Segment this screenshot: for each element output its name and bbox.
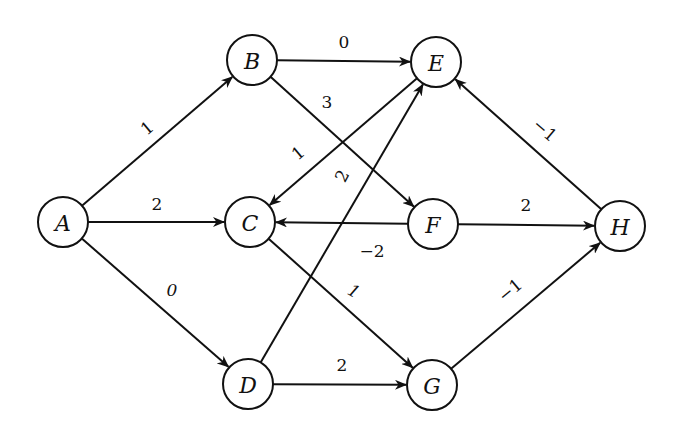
node-a: A [38, 197, 88, 247]
edge-label-layer: 1200312−2212−1−1 [136, 32, 561, 375]
edge-d-to-g [273, 384, 406, 385]
edge-weight-e-c: 1 [287, 142, 308, 164]
edge-weight-g-h: −1 [494, 274, 526, 305]
edge-weight-a-d: 0 [167, 280, 178, 300]
node-label: B [243, 49, 260, 74]
edge-weight-a-b: 1 [136, 117, 157, 139]
edge-weight-c-g: 1 [344, 280, 363, 303]
node-f: F [408, 199, 458, 249]
node-label: H [609, 215, 630, 240]
edge-f-to-c [276, 222, 408, 223]
graph-canvas: 1200312−2212−1−1 ABCDEFGH [0, 0, 675, 435]
node-c: C [225, 197, 275, 247]
edge-weight-b-f: 3 [322, 92, 333, 112]
edge-weight-f-c: −2 [359, 241, 384, 261]
node-g: G [407, 360, 457, 410]
node-label: E [427, 51, 444, 76]
edge-a-to-d [82, 238, 229, 366]
edge-h-to-e [455, 79, 601, 209]
node-d: D [223, 359, 273, 409]
edge-f-to-h [458, 224, 594, 225]
edge-c-to-g [269, 239, 413, 368]
edge-a-to-b [82, 77, 232, 206]
edge-weight-b-e: 0 [339, 32, 350, 52]
edge-g-to-h [451, 243, 600, 369]
edge-weight-d-e: 2 [331, 167, 354, 186]
edge-weight-h-e: −1 [529, 114, 561, 145]
edge-weight-f-h: 2 [521, 195, 532, 215]
node-label: C [242, 211, 259, 236]
node-label: A [53, 211, 71, 236]
node-h: H [595, 201, 645, 251]
node-label: G [423, 374, 441, 399]
node-label: D [238, 373, 257, 398]
node-label: F [424, 213, 441, 238]
edge-b-to-e [277, 60, 410, 61]
edge-weight-d-g: 2 [337, 355, 348, 375]
edge-weight-a-c: 2 [152, 194, 163, 214]
edge-layer [82, 60, 602, 385]
node-e: E [411, 37, 461, 87]
node-b: B [227, 35, 277, 85]
